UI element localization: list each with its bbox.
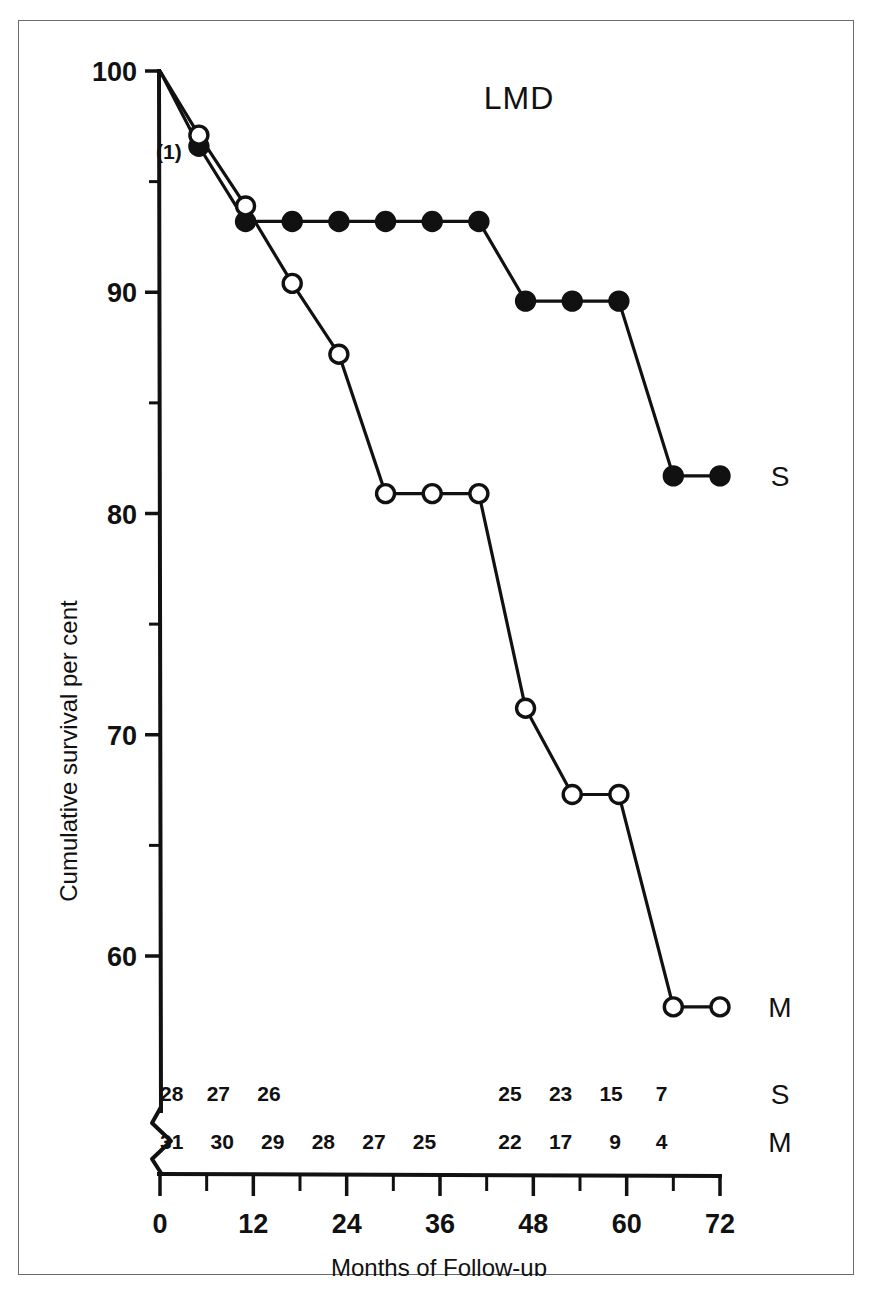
at-risk-count: 26 (257, 1082, 280, 1105)
x-axis: 0122436486072 Months of Follow-up (152, 1174, 735, 1276)
x-tick-label: 0 (152, 1209, 167, 1239)
at-risk-count: 29 (261, 1130, 284, 1153)
at-risk-count: 22 (498, 1130, 521, 1153)
chart-title: LMD (484, 80, 555, 116)
at-risk-count: 31 (160, 1130, 184, 1153)
data-point-S (283, 212, 301, 230)
series-S (160, 71, 729, 485)
curve-path-S (160, 71, 720, 476)
at-risk-row-S: 2827262523157S (160, 1079, 789, 1110)
at-risk-count: 7 (656, 1082, 668, 1105)
survival-chart: LMD 60708090100 Cumulative survival per … (19, 21, 855, 1276)
curve-label-M: M (768, 992, 791, 1023)
series-layer (160, 71, 729, 1016)
data-point-S (423, 212, 441, 230)
at-risk-count: 23 (549, 1082, 572, 1105)
y-tick-label: 60 (107, 942, 137, 972)
data-point-S (377, 212, 395, 230)
at-risk-count: 28 (312, 1130, 336, 1153)
x-tick-label: 12 (238, 1209, 268, 1239)
data-point-M (377, 485, 395, 503)
at-risk-table: 2827262523157S313029282725221794M (160, 1079, 792, 1158)
x-axis-tick-labels: 0122436486072 (152, 1209, 735, 1239)
at-risk-count: 4 (656, 1130, 668, 1153)
data-point-S (517, 292, 535, 310)
data-point-S (470, 212, 488, 230)
at-risk-row-label-M: M (768, 1127, 791, 1158)
at-risk-count: 27 (362, 1130, 385, 1153)
x-tick-label: 60 (612, 1209, 642, 1239)
y-tick-label: 90 (107, 278, 137, 308)
y-tick-label: 70 (107, 721, 137, 751)
at-risk-count: 28 (160, 1082, 184, 1105)
x-tick-label: 48 (518, 1209, 548, 1239)
data-point-M (423, 485, 441, 503)
data-point-M (237, 197, 255, 215)
at-risk-count: 30 (211, 1130, 234, 1153)
annotation-note: (1) (156, 140, 182, 163)
at-risk-count: 25 (498, 1082, 522, 1105)
data-point-M (610, 785, 628, 803)
data-point-S (330, 212, 348, 230)
x-tick-label: 36 (425, 1209, 455, 1239)
data-point-M (664, 998, 682, 1016)
at-risk-count: 27 (207, 1082, 230, 1105)
x-tick-label: 24 (332, 1209, 362, 1239)
y-tick-label: 80 (107, 500, 137, 530)
y-axis: 60708090100 Cumulative survival per cent (55, 57, 161, 1111)
series-M (160, 71, 729, 1016)
data-point-M (283, 274, 301, 292)
figure-frame: LMD 60708090100 Cumulative survival per … (18, 20, 854, 1275)
at-risk-count: 17 (549, 1130, 572, 1153)
data-point-S (664, 467, 682, 485)
y-tick-label: 100 (92, 57, 137, 87)
data-point-S (563, 292, 581, 310)
data-point-M (711, 998, 729, 1016)
data-point-M (470, 485, 488, 503)
x-axis-title: Months of Follow-up (331, 1254, 547, 1276)
curve-label-S: S (771, 461, 790, 492)
y-axis-title: Cumulative survival per cent (55, 600, 82, 902)
data-point-S (610, 292, 628, 310)
data-point-M (563, 785, 581, 803)
data-point-M (330, 345, 348, 363)
at-risk-count: 9 (609, 1130, 621, 1153)
data-point-S (711, 467, 729, 485)
at-risk-row-M: 313029282725221794M (160, 1127, 792, 1158)
data-point-M (190, 126, 208, 144)
at-risk-count: 15 (599, 1082, 623, 1105)
curve-end-labels: SM (768, 461, 791, 1023)
y-axis-tick-labels: 60708090100 (92, 57, 137, 972)
at-risk-row-label-S: S (771, 1079, 790, 1110)
at-risk-count: 25 (413, 1130, 437, 1153)
data-point-M (517, 699, 535, 717)
x-tick-label: 72 (705, 1209, 735, 1239)
